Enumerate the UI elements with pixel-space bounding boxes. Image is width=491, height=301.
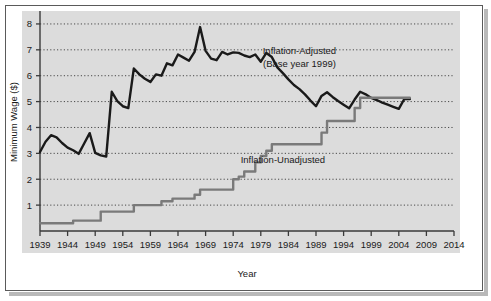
y-tick-label-2: 2 — [27, 174, 32, 185]
y-tick-label-4: 4 — [27, 122, 32, 133]
x-tick-label-2009: 2009 — [416, 239, 437, 250]
annotation-inflation-adjusted-line1: Inflation-Adjusted — [263, 45, 336, 56]
x-tick-label-1974: 1974 — [223, 239, 244, 250]
x-tick-label-1989: 1989 — [305, 239, 326, 250]
y-tick-label-7: 7 — [27, 44, 32, 55]
x-axis-title: Year — [237, 268, 256, 279]
y-tick-label-5: 5 — [27, 96, 32, 107]
x-tick-label-1969: 1969 — [195, 239, 216, 250]
x-tick-label-1984: 1984 — [278, 239, 299, 250]
x-tick-label-1944: 1944 — [57, 239, 78, 250]
x-tick-label-1954: 1954 — [112, 239, 133, 250]
plot-panel — [22, 11, 460, 253]
y-tick-label-3: 3 — [27, 148, 32, 159]
annotation-inflation-adjusted-line2: (Base year 1999) — [263, 58, 336, 69]
y-tick-label-6: 6 — [27, 70, 32, 81]
minimum-wage-line-chart: 12345678 1939194419491954195919641969197… — [0, 0, 491, 301]
y-axis-title: Minimum Wage ($) — [8, 82, 19, 162]
x-tick-label-2004: 2004 — [388, 239, 409, 250]
annotation-inflation-unadjusted: Inflation-Unadjusted — [241, 154, 326, 165]
x-tick-label-1979: 1979 — [250, 239, 271, 250]
x-tick-label-1964: 1964 — [167, 239, 188, 250]
y-tick-label-1: 1 — [27, 200, 32, 211]
x-tick-label-2014: 2014 — [443, 239, 464, 250]
x-tick-label-1949: 1949 — [85, 239, 106, 250]
x-tick-label-1994: 1994 — [333, 239, 354, 250]
x-tick-label-1939: 1939 — [29, 239, 50, 250]
figure-root: 12345678 1939194419491954195919641969197… — [0, 0, 491, 301]
x-tick-label-1999: 1999 — [361, 239, 382, 250]
x-tick-label-1959: 1959 — [140, 239, 161, 250]
y-tick-label-8: 8 — [27, 18, 32, 29]
